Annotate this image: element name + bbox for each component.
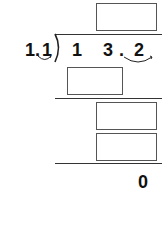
second-product-answer-box[interactable] bbox=[96, 133, 157, 161]
remainder-value: 0 bbox=[138, 173, 148, 191]
second-partial-answer-box[interactable] bbox=[96, 102, 157, 130]
subtraction-line-2 bbox=[55, 163, 162, 164]
first-product-answer-box[interactable] bbox=[67, 67, 123, 95]
subtraction-line-1 bbox=[55, 98, 162, 99]
